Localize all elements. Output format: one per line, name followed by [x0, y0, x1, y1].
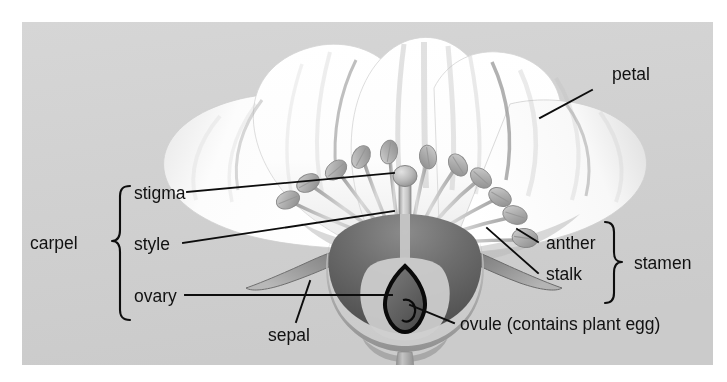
- label-sepal: sepal: [268, 325, 310, 345]
- label-stamen: stamen: [634, 253, 691, 273]
- label-ovary: ovary: [134, 286, 177, 306]
- label-anther: anther: [546, 233, 596, 253]
- stigma-head: [393, 166, 417, 187]
- label-style: style: [134, 234, 170, 254]
- label-ovule: ovule (contains plant egg): [460, 314, 660, 334]
- label-petal: petal: [612, 64, 650, 84]
- label-carpel: carpel: [30, 233, 78, 253]
- flower-diagram: petal stigma carpel style ovary sepal an…: [0, 0, 727, 382]
- stem: [396, 352, 414, 382]
- label-stigma: stigma: [134, 183, 186, 203]
- label-stalk: stalk: [546, 264, 582, 284]
- figure-stage: petal stigma carpel style ovary sepal an…: [0, 0, 727, 382]
